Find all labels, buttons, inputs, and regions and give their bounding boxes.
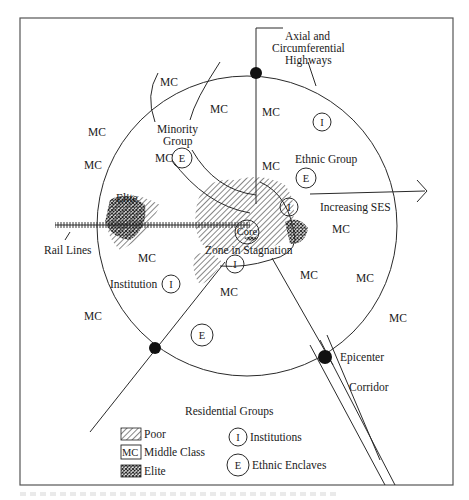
mc-label: MC	[220, 286, 238, 298]
svg-text:I: I	[320, 117, 324, 128]
axial-highways-label-3: Highways	[285, 54, 332, 67]
mc-label: MC	[84, 159, 102, 171]
legend-institutions-label: Institutions	[250, 431, 302, 443]
legend: Residential Groups Poor MC Middle Class …	[121, 405, 327, 477]
axial-highways-label: Axial and	[285, 30, 330, 42]
mc-label: MC	[88, 126, 106, 138]
svg-text:I: I	[287, 202, 291, 213]
mc-label: MC	[262, 160, 280, 172]
svg-text:E: E	[303, 173, 309, 184]
legend-mc-symbol: MC	[122, 447, 138, 458]
highway-node-north	[250, 67, 262, 79]
rail-lines-label: Rail Lines	[44, 244, 92, 256]
legend-poor-label: Poor	[144, 428, 166, 440]
institution-marker-west: I	[162, 275, 180, 293]
minority-group-label-2: Group	[163, 135, 193, 148]
mc-label: MC	[389, 312, 407, 324]
mc-label: MC	[300, 269, 318, 281]
svg-text:E: E	[179, 153, 185, 164]
legend-elite-label: Elite	[144, 465, 166, 477]
legend-title: Residential Groups	[185, 405, 274, 418]
institution-marker-south: I	[226, 255, 244, 273]
zone-in-stagnation-label: Zone in Stagnation	[205, 244, 293, 257]
mc-label: MC	[138, 252, 156, 264]
svg-text:E: E	[199, 330, 205, 341]
corridor-label: Corridor	[349, 381, 389, 393]
elite-label: Elite	[116, 192, 138, 204]
mc-label: MC	[262, 106, 280, 118]
ethnic-marker-minority: E	[172, 148, 192, 168]
increasing-ses-label: Increasing SES	[320, 201, 391, 214]
institution-label: Institution	[110, 278, 158, 290]
legend-middle-class-label: Middle Class	[144, 446, 206, 458]
institution-marker-ne: I	[313, 113, 331, 131]
ses-arrow-shaft	[310, 191, 425, 194]
rail-lines-leader	[65, 232, 70, 240]
ethnic-marker-south: E	[191, 324, 213, 346]
poor-zone-core	[195, 177, 294, 254]
legend-poor-swatch	[121, 428, 141, 440]
ethnic-marker-ne: E	[296, 168, 316, 188]
epicenter-label: Epicenter	[340, 351, 384, 364]
mc-label: MC	[332, 223, 350, 235]
svg-text:E: E	[235, 460, 241, 471]
legend-ethnic-enclaves-label: Ethnic Enclaves	[252, 459, 327, 471]
svg-text:I: I	[169, 279, 173, 290]
elite-zone-east	[285, 220, 308, 245]
faded-caption	[20, 492, 340, 496]
svg-text:I: I	[233, 259, 237, 270]
mc-label: MC	[356, 272, 374, 284]
mc-label: MC	[210, 103, 228, 115]
mc-label: MC	[155, 152, 173, 164]
ethnic-group-label: Ethnic Group	[295, 153, 358, 166]
axial-highways-label-2: Circumferential	[272, 42, 345, 54]
poor-zone-south	[193, 253, 222, 285]
urban-model-diagram: Core I E E I I I E MC MC MC MC MC MC MC …	[0, 0, 469, 500]
svg-text:I: I	[236, 432, 240, 443]
epicenter-node	[318, 350, 332, 364]
mc-label: MC	[160, 76, 178, 88]
mc-label: MC	[84, 310, 102, 322]
legend-elite-swatch	[121, 465, 141, 477]
minority-arc-left	[151, 73, 158, 122]
highway-node-southwest	[149, 342, 161, 354]
